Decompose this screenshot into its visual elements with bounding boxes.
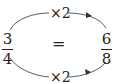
- bottom-arrowhead-icon: [85, 69, 91, 75]
- left-denominator: 4: [3, 52, 13, 67]
- left-fraction: 3 4: [2, 32, 13, 67]
- top-arrow: [10, 13, 49, 30]
- equals-sign: =: [52, 36, 65, 52]
- bottom-multiplier-label: ×2: [50, 70, 71, 84]
- left-numerator: 3: [3, 32, 13, 47]
- right-fraction: 6 8: [101, 32, 112, 67]
- right-numerator: 6: [102, 32, 112, 47]
- right-denominator: 8: [102, 52, 112, 67]
- bottom-arrow: [10, 58, 49, 77]
- top-multiplier-label: ×2: [50, 6, 71, 20]
